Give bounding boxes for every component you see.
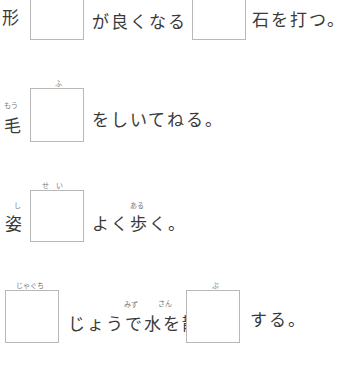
row4-middle-text: じょうで水を散: [68, 310, 201, 335]
row3-middle-ruby: ある: [130, 200, 144, 210]
row4-middle-ruby-2: さん: [158, 298, 172, 308]
row4-middle-ruby-1: みず: [124, 299, 138, 309]
row3-prefix-kanji: 姿: [5, 210, 24, 235]
row3-answer-box[interactable]: [30, 190, 84, 242]
row4-box2-ruby: ぶ: [212, 280, 219, 290]
row1-answer-box-1[interactable]: [30, 0, 84, 40]
row2-middle-text: をしいてねる。: [92, 106, 224, 131]
row3-prefix-ruby: し: [14, 200, 21, 210]
row2-prefix-ruby: もう: [4, 100, 18, 110]
row2-box-ruby: ふ: [55, 78, 62, 88]
row4-suffix-text: する。: [250, 306, 307, 331]
row4-answer-box-1[interactable]: [5, 290, 59, 343]
row2-answer-box[interactable]: [30, 88, 84, 142]
row3-box-ruby: せ い: [42, 180, 63, 190]
row1-prefix-kanji: 形: [2, 4, 21, 29]
row1-answer-box-2[interactable]: [192, 0, 246, 40]
row4-answer-box-2[interactable]: [186, 290, 240, 343]
row1-middle-text: が良くなる: [92, 8, 187, 33]
row4-box1-ruby: じゃぐち: [16, 280, 44, 290]
row2-prefix-kanji: 毛: [4, 112, 23, 137]
row3-middle-text: よく歩く。: [92, 210, 187, 235]
row1-suffix-text: 石を打つ。: [252, 6, 346, 31]
